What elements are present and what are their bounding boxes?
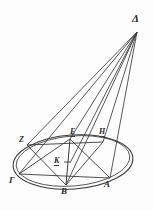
point-label-alpha: A <box>104 180 110 189</box>
chord-beta-eta <box>66 142 103 185</box>
point-label-zeta: Z <box>19 136 24 144</box>
point-label-beta: B <box>61 187 67 196</box>
line-delta-beta <box>66 32 137 185</box>
line-delta-zeta <box>27 32 137 145</box>
point-label-gamma: Γ <box>9 176 14 185</box>
chord-gamma-alpha <box>19 174 110 178</box>
chord-epsilon-alpha <box>70 139 110 178</box>
point-label-eta: H <box>99 128 105 137</box>
point-label-epsilon: E <box>70 128 75 137</box>
geometric-figure-canvas: · Δ Z E H K <box>0 0 153 211</box>
line-delta-gamma <box>19 32 137 174</box>
point-label-kappa: K <box>54 157 59 166</box>
point-label-delta: Δ <box>132 13 139 24</box>
base-ellipse-group <box>11 131 134 193</box>
figure-drawing <box>0 0 153 211</box>
base-ellipse <box>11 131 134 193</box>
